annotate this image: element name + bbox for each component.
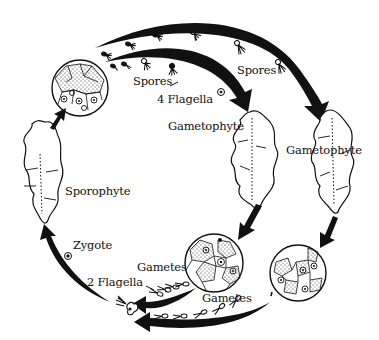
arrow-sporophyte-to-sporangium xyxy=(50,108,66,130)
diagram-artwork xyxy=(0,0,379,340)
arrow-gametophyte-right-down xyxy=(320,216,338,248)
arrow-gametophyte-center-down xyxy=(238,204,262,240)
sporophyte xyxy=(24,121,63,223)
zygote-cell xyxy=(65,253,72,260)
label-2-flagella: 2 Flagella xyxy=(87,275,143,289)
label-spores-left: Spores xyxy=(133,74,172,88)
label-sporophyte: Sporophyte xyxy=(65,184,130,198)
gametangium-center xyxy=(185,234,243,292)
label-gametophyte-right: Gametophyte xyxy=(286,143,362,157)
fusing-gametes xyxy=(116,296,138,315)
sporangium xyxy=(52,60,108,116)
arrow-zygote-to-sporophyte xyxy=(40,224,110,302)
label-4-flagella: 4 Flagella xyxy=(157,92,213,106)
arrow-gametes-center-to-zygote xyxy=(132,288,196,314)
label-gametes-left: Gametes xyxy=(137,260,187,274)
gametangium-right xyxy=(270,245,326,301)
label-spores-right: Spores xyxy=(237,63,276,77)
gametophyte-right xyxy=(311,110,354,213)
label-gametes-bottom: Gametes xyxy=(202,291,252,305)
life-cycle-diagram: Spores 4 Flagella Spores Gametophyte Gam… xyxy=(0,0,379,340)
label-zygote: Zygote xyxy=(73,238,112,252)
label-gametophyte-center: Gametophyte xyxy=(168,119,244,133)
